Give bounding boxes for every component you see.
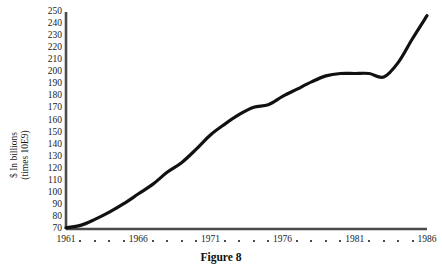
y-tick-label: 240 [36,19,62,29]
data-series-line [66,16,427,228]
x-minor-tick-dot [368,240,370,242]
y-axis-title-line-2: (times 10E9) [20,95,31,215]
y-tick-label: 80 [36,212,62,222]
y-tick-label: 190 [36,79,62,89]
x-tick-label: 1971 [188,234,232,244]
x-minor-tick-dot [94,240,96,242]
line-chart [0,0,442,271]
x-minor-tick-dot [310,240,312,242]
y-tick-label: 250 [36,7,62,17]
y-tick-label: 70 [36,224,62,234]
x-minor-tick-dot [383,240,385,242]
x-minor-tick-dot [267,240,269,242]
x-tick-label: 1981 [333,234,377,244]
y-tick-label: 200 [36,67,62,77]
x-minor-tick-dot [166,240,168,242]
y-axis-title-line-1: $ In billions [9,95,20,215]
y-axis-title: $ In billions (times 10E9) [4,92,40,212]
x-minor-tick-dot [325,240,327,242]
x-minor-tick-dot [123,240,125,242]
chart-axes [66,12,427,229]
x-minor-tick-dot [181,240,183,242]
y-tick-label: 210 [36,55,62,65]
x-minor-tick-dot [195,240,197,242]
x-minor-tick-dot [108,240,110,242]
x-tick-label: 1986 [405,234,442,244]
x-minor-tick-dot [296,240,298,242]
figure-container: 2502402302202102001901801701601501401301… [0,0,442,271]
x-minor-tick-dot [224,240,226,242]
x-minor-tick-dot [253,240,255,242]
x-tick-label: 1966 [116,234,160,244]
x-minor-tick-dot [79,240,81,242]
x-minor-tick-dot [152,240,154,242]
x-tick-label: 1976 [261,234,305,244]
x-minor-tick-dot [339,240,341,242]
figure-caption: Figure 8 [0,251,442,263]
x-tick-label: 1961 [44,234,88,244]
x-minor-tick-dot [412,240,414,242]
y-tick-label: 220 [36,43,62,53]
x-minor-tick-dot [397,240,399,242]
x-minor-tick-dot [238,240,240,242]
y-tick-label: 230 [36,31,62,41]
